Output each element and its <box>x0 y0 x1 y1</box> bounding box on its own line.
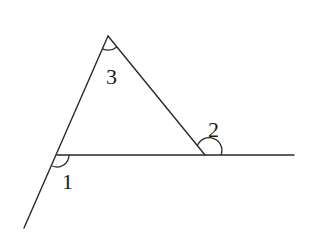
geometry-diagram: 1 2 3 <box>0 0 309 252</box>
angle-3-label: 3 <box>106 64 117 89</box>
angle-1-label: 1 <box>62 169 73 194</box>
angle-2-label: 2 <box>208 117 219 142</box>
angle-3-arc <box>102 47 117 50</box>
side-ab-extended-line <box>24 36 108 228</box>
triangle-figure: 1 2 3 <box>0 0 309 252</box>
side-ac-line <box>108 36 205 155</box>
